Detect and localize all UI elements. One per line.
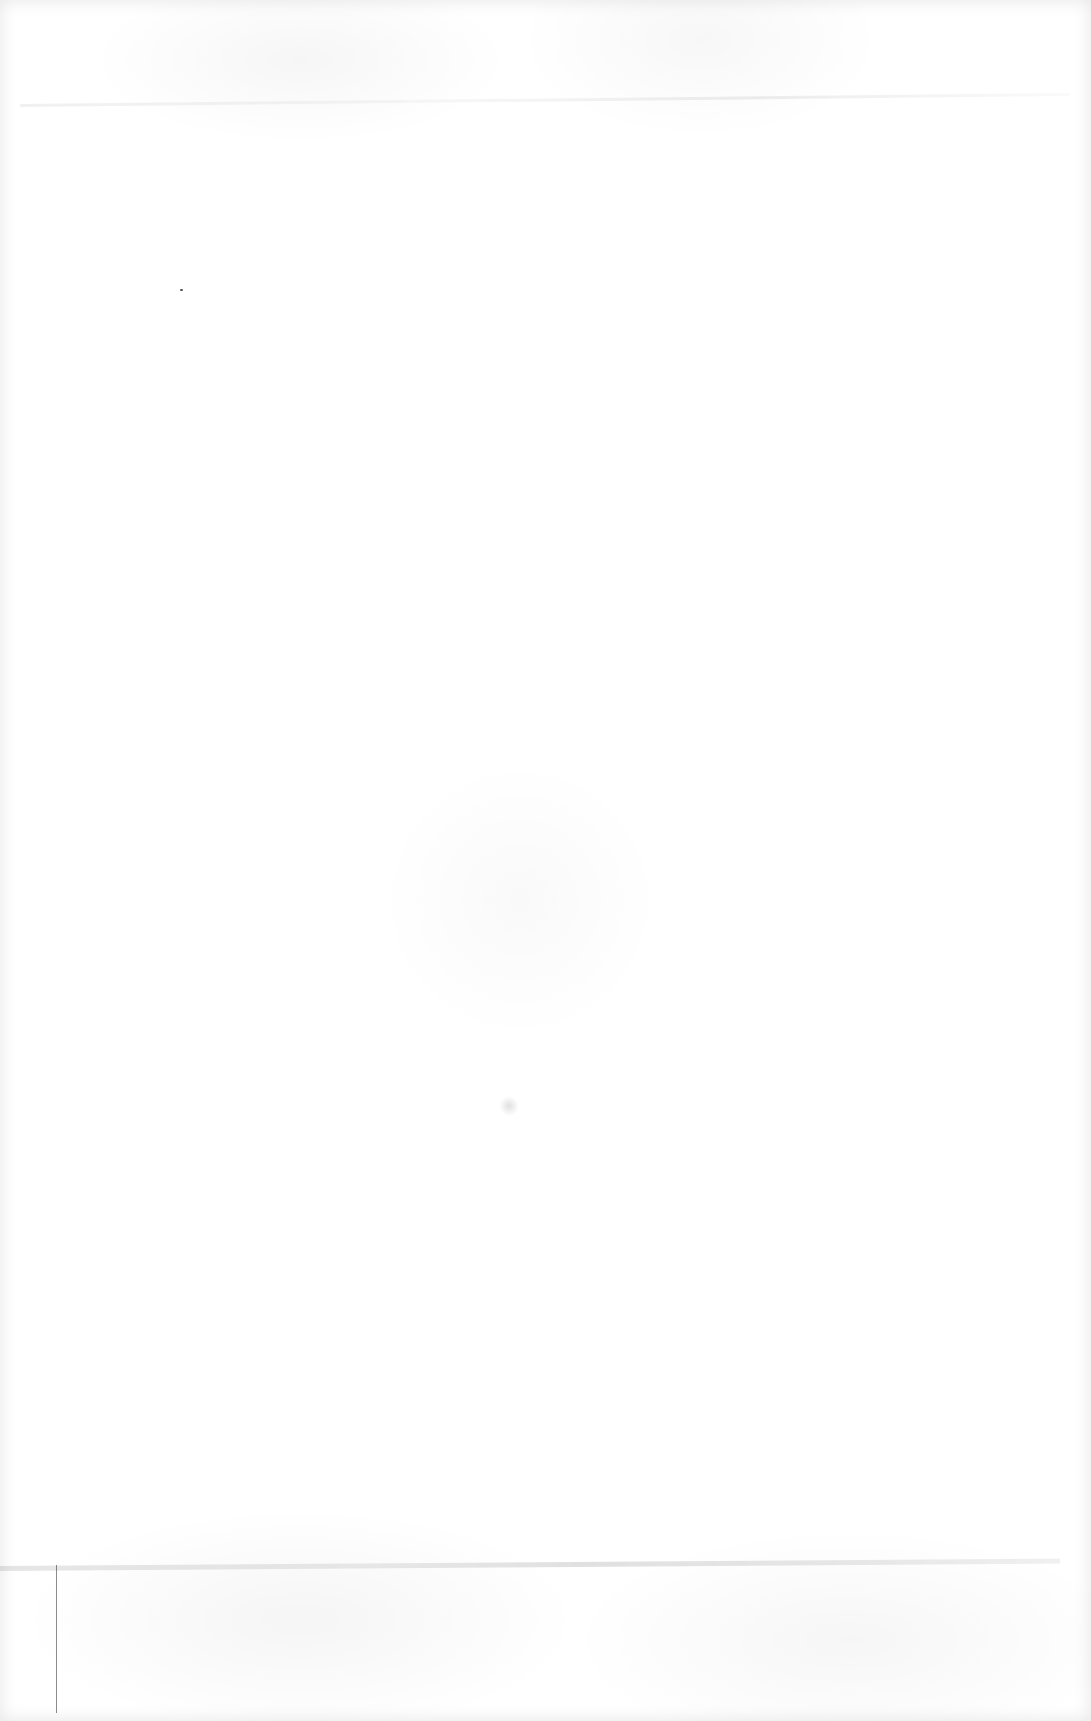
scan-vertical-line bbox=[56, 1565, 57, 1713]
page-edge-shadow bbox=[0, 0, 1091, 1721]
scan-streak-bottom bbox=[0, 1559, 1060, 1571]
scan-streak-top bbox=[20, 93, 1070, 107]
blank-scanned-page bbox=[0, 0, 1091, 1721]
scan-smudge bbox=[500, 1095, 518, 1117]
scan-speck bbox=[180, 289, 183, 291]
